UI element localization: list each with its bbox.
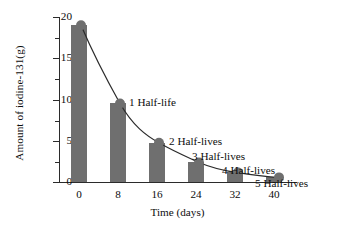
annotation-5-half-lives: 5 Half-lives (255, 178, 308, 189)
x-tick-label-24: 24 (190, 189, 201, 200)
annotation-3-half-lives: 3 Half-lives (192, 151, 245, 162)
x-tick-label-40: 40 (268, 189, 279, 200)
x-tick-label-32: 32 (229, 189, 240, 200)
decay-curve (59, 17, 296, 183)
plot-area: 20 15 10 5 0 0 8 16 24 32 40 1 Half-life (59, 17, 296, 182)
x-tick-label-0: 0 (76, 189, 82, 200)
marker-day-8 (115, 99, 125, 109)
annotation-1-half-life: 1 Half-life (129, 97, 176, 108)
x-axis-title: Time (days) (59, 206, 296, 218)
marker-day-16 (154, 138, 164, 148)
annotation-4-half-lives: 4 Half-lives (222, 165, 275, 176)
decay-chart-figure: Amount of iodine-131(g) Time (days) 20 1… (0, 0, 344, 238)
annotation-2-half-lives: 2 Half-lives (169, 136, 222, 147)
marker-day-0 (76, 20, 86, 30)
x-tick-label-8: 8 (115, 189, 121, 200)
y-axis-title: Amount of iodine-131(g) (13, 18, 25, 188)
x-tick-label-16: 16 (151, 189, 162, 200)
decay-curve-path (81, 25, 279, 177)
